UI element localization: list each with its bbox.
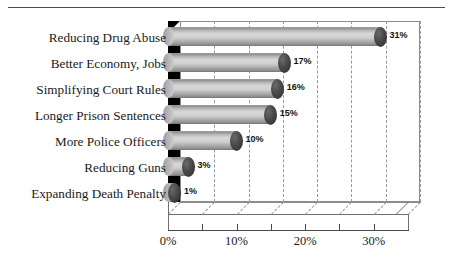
x-tick-25	[339, 224, 340, 231]
bar	[168, 27, 381, 46]
bar-chart: 31%17%16%15%10%3%1% Reducing Drug AbuseB…	[0, 0, 451, 265]
x-tick-30	[374, 224, 375, 231]
bar-end-cap	[182, 157, 195, 177]
top-divider-rule	[8, 7, 445, 8]
gridline-35	[420, 21, 421, 202]
bar-value-label: 16%	[287, 82, 305, 92]
bar	[168, 131, 237, 150]
gridline-25	[351, 21, 352, 202]
category-label: More Police Officers	[55, 134, 166, 150]
bar-end-cap	[230, 131, 243, 151]
x-tick-15	[271, 224, 272, 231]
bar-value-label: 3%	[198, 160, 211, 170]
category-label: Longer Prison Sentences	[35, 108, 166, 124]
bar-value-label: 31%	[390, 30, 408, 40]
category-label: Simplifying Court Rules	[36, 82, 166, 98]
x-tick-label-30: 30%	[362, 234, 385, 249]
x-tick-20	[305, 224, 306, 231]
bar	[168, 105, 271, 124]
category-label: Better Economy, Jobs	[51, 56, 166, 72]
category-label: Reducing Guns	[84, 160, 166, 176]
bar	[168, 53, 285, 72]
bar-end-cap	[271, 79, 284, 99]
axis-connector-left	[168, 214, 169, 230]
bar-end-cap	[168, 183, 181, 203]
gridline-30	[386, 21, 387, 202]
x-tick-label-0: 0%	[160, 234, 177, 249]
bar	[168, 79, 278, 98]
x-tick-5	[202, 224, 203, 231]
x-tick-label-20: 20%	[294, 234, 317, 249]
category-label: Reducing Drug Abuse	[49, 30, 166, 46]
plot-floor-front-edge	[168, 214, 409, 215]
axis-connector-right	[408, 214, 409, 230]
category-label: Expanding Death Penalty	[31, 186, 166, 202]
gridline-20	[317, 21, 318, 202]
x-tick-label-10: 10%	[225, 234, 248, 249]
bar-end-cap	[374, 27, 387, 47]
x-tick-10	[237, 224, 238, 231]
bar-value-label: 10%	[246, 134, 264, 144]
bar-value-label: 15%	[280, 108, 298, 118]
bar-end-cap	[278, 53, 291, 73]
bar-value-label: 1%	[184, 186, 197, 196]
bar-end-cap	[264, 105, 277, 125]
bar-value-label: 17%	[294, 56, 312, 66]
